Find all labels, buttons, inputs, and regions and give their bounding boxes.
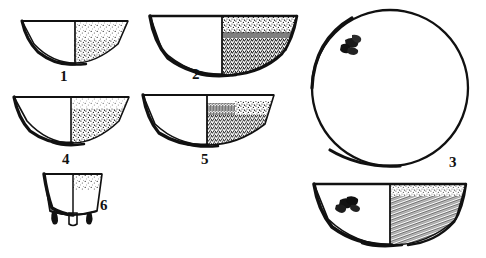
vessel-2-wall-thickness [150, 16, 224, 75]
vessel-1-fill [74, 18, 134, 68]
vessel-group-2 [150, 14, 304, 80]
stamped-motif-section [335, 196, 360, 213]
vessel-group-1 [22, 18, 134, 68]
vessel-group-3-section [314, 182, 470, 248]
vessel-label-6: 6 [100, 198, 108, 213]
vessel-plate-figure [0, 0, 486, 258]
vessel-3-plan-outline [312, 10, 468, 166]
vessel-6-wall-thickness [44, 174, 73, 215]
vessel-5-fill [207, 101, 279, 149]
vessel-group-3-plan [312, 10, 468, 166]
vessel-label-4: 4 [62, 152, 70, 167]
vessel-label-3: 3 [449, 155, 457, 170]
vessel-2-fill [222, 14, 304, 80]
vessel-group-4 [14, 94, 133, 148]
vessel-label-2: 2 [192, 67, 200, 82]
vessel-4-fill [71, 94, 133, 148]
vessel-group-5 [143, 95, 279, 149]
vessel-4-wall-thickness [14, 97, 72, 143]
vessel-label-1: 1 [60, 69, 68, 84]
vessel-group-6 [44, 172, 105, 226]
vessel-label-5: 5 [201, 152, 209, 167]
vessel-1-wall-thickness [22, 21, 75, 64]
